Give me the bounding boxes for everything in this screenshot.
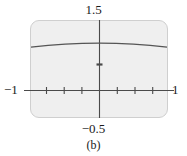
figure-container: 1.5 −1 1 −0.5 (b) [0,0,187,156]
plot-graphics [0,0,187,156]
